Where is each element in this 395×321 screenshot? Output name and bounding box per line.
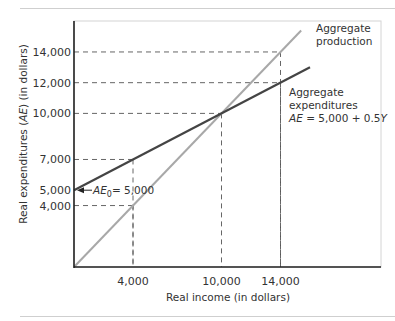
aggregate-production-label: Aggregateproduction: [316, 22, 372, 47]
y-tick-label: 14,000: [33, 46, 72, 59]
aggregate-expenditures-line: [74, 67, 310, 190]
x-tick-label: 4,000: [117, 275, 149, 288]
y-tick-label: 4,000: [40, 200, 72, 213]
x-axis-label: Real income (in dollars): [166, 291, 290, 303]
intercept-label: AE0= 5,000: [92, 184, 154, 199]
aggregate-expenditures-equation: AE = 5,000 + 0.5Y: [288, 112, 389, 124]
y-tick-label: 5,000: [40, 184, 72, 197]
y-axis-label: Real expenditures (AE) (in dollars): [17, 44, 29, 224]
aggregate-expenditures-label: Aggregateexpenditures: [289, 86, 358, 111]
y-tick-label: 12,000: [33, 77, 72, 90]
x-tick-label: 14,000: [261, 275, 300, 288]
plot-frame: [74, 21, 381, 267]
y-tick-label: 10,000: [33, 107, 72, 120]
chart: 4,0005,0007,00010,00012,00014,0004,00010…: [0, 0, 395, 321]
aggregate-production-line: [74, 30, 301, 267]
x-tick-label: 10,000: [202, 275, 241, 288]
y-tick-label: 7,000: [40, 153, 72, 166]
